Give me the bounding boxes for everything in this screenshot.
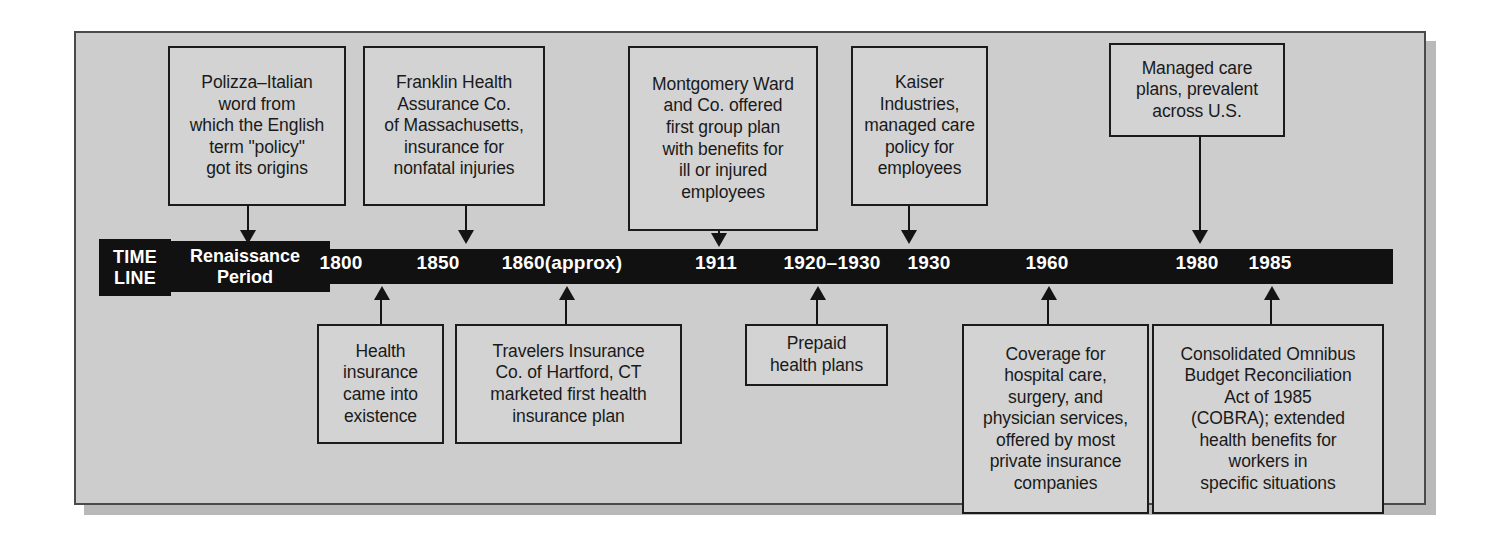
callout-box-prepaid-health-plans: Prepaid health plans	[745, 324, 888, 386]
timeline-tick-1920-1930: 1920–1930	[784, 252, 881, 274]
callout-box-managed-care-plans: Managed care plans, prevalent across U.S…	[1109, 43, 1285, 137]
arrow-down-franklin-health	[458, 230, 474, 244]
callout-box-franklin-health: Franklin Health Assurance Co. of Massach…	[363, 46, 545, 206]
connector-travelers-insurance	[565, 298, 567, 324]
callout-box-polizza: Polizza–Italian word from which the Engl…	[168, 46, 346, 206]
callout-box-health-insurance-existence: Health insurance came into existence	[317, 324, 444, 444]
timeline-tick-1930: 1930	[907, 252, 950, 274]
arrow-up-coverage-hospital-care	[1041, 286, 1057, 300]
connector-cobra	[1270, 298, 1272, 324]
arrow-up-travelers-insurance	[559, 286, 575, 300]
timeline-tick-1911: 1911	[695, 252, 737, 274]
timeline-tick-1850: 1850	[416, 252, 459, 274]
timeline-era-line1: Renaissance	[190, 246, 300, 266]
connector-prepaid-health-plans	[816, 298, 818, 324]
connector-managed-care-plans	[1199, 137, 1201, 234]
timeline-tick-1960: 1960	[1025, 252, 1068, 274]
timeline-era-renaissance: Renaissance Period	[160, 241, 330, 292]
connector-health-insurance-existence	[380, 298, 382, 324]
arrow-down-montgomery-ward	[711, 233, 727, 247]
arrow-down-kaiser-industries	[901, 230, 917, 244]
callout-box-cobra: Consolidated Omnibus Budget Reconciliati…	[1152, 324, 1384, 514]
timeline-tick-1985: 1985	[1248, 252, 1291, 274]
arrow-down-managed-care-plans	[1192, 230, 1208, 244]
arrow-up-health-insurance-existence	[374, 286, 390, 300]
timeline-figure: Polizza–Italian word from which the Engl…	[0, 0, 1487, 560]
callout-box-coverage-hospital-care: Coverage for hospital care, surgery, and…	[962, 324, 1149, 514]
arrow-up-cobra	[1264, 286, 1280, 300]
timeline-tick-1860-approx: 1860(approx)	[502, 252, 623, 274]
connector-coverage-hospital-care	[1047, 298, 1049, 324]
timeline-era-line2: Period	[217, 267, 273, 287]
timeline-tick-1800: 1800	[319, 252, 362, 274]
callout-box-travelers-insurance: Travelers Insurance Co. of Hartford, CT …	[455, 324, 682, 444]
callout-box-montgomery-ward: Montgomery Ward and Co. offered first gr…	[628, 46, 818, 231]
timeline-label-line2: LINE	[114, 268, 156, 288]
timeline-label-line1: TIME	[113, 247, 157, 267]
arrow-up-prepaid-health-plans	[810, 286, 826, 300]
timeline-tick-1980: 1980	[1175, 252, 1218, 274]
callout-box-kaiser-industries: Kaiser Industries, managed care policy f…	[851, 46, 988, 206]
